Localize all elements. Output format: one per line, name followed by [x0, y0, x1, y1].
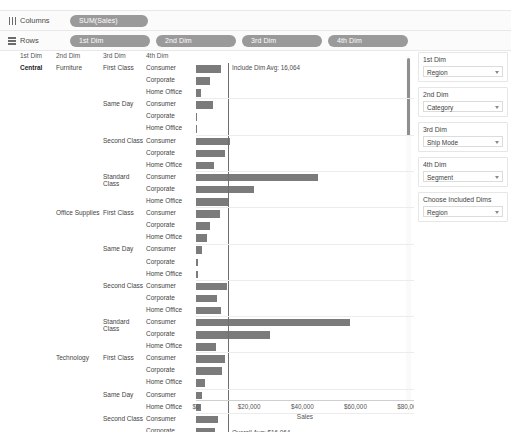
bar[interactable] — [196, 162, 214, 170]
viz-scrollbar-thumb[interactable] — [407, 58, 410, 136]
group-separator — [196, 171, 414, 172]
chevron-down-icon — [495, 176, 499, 179]
reference-line-include-dim-avg — [228, 63, 229, 432]
bar[interactable] — [196, 367, 222, 375]
chevron-down-icon — [495, 141, 499, 144]
bar[interactable] — [196, 271, 198, 279]
pill-2nd-dim[interactable]: 2nd Dim — [156, 35, 236, 47]
table-row[interactable]: Same DayConsumer — [0, 99, 414, 111]
columns-pill-list: SUM(Sales) — [70, 15, 148, 27]
rows-pill-list: 1st Dim 2nd Dim 3rd Dim 4th Dim — [70, 35, 408, 47]
bar[interactable] — [196, 77, 210, 85]
bar[interactable] — [196, 392, 202, 400]
bar[interactable] — [196, 125, 197, 133]
dropdown-2nd-dim[interactable]: Category — [423, 101, 503, 112]
bar[interactable] — [196, 259, 198, 267]
row-dim4-label: Consumer — [146, 391, 176, 399]
header-3rd-dim: 3rd Dim — [103, 52, 126, 59]
pill-4th-dim[interactable]: 4th Dim — [328, 35, 408, 47]
table-row[interactable]: Corporate — [0, 148, 414, 160]
x-axis-tick-label: $20,000 — [238, 403, 261, 410]
bar[interactable] — [196, 222, 210, 230]
control-group-title: Choose Included Dims — [423, 196, 503, 203]
columns-shelf-label: Columns — [0, 16, 70, 25]
table-row[interactable]: Corporate — [0, 184, 414, 196]
dropdown-choose-included-dims[interactable]: Region — [423, 206, 503, 217]
row-dim4-label: Consumer — [146, 64, 176, 72]
table-row[interactable]: Corporate — [0, 220, 414, 232]
control-panel: 1st DimRegion2nd DimCategory3rd DimShip … — [418, 52, 508, 227]
bar[interactable] — [196, 307, 221, 315]
table-row[interactable]: TechnologyFirst ClassConsumer — [0, 353, 414, 365]
table-row[interactable]: Corporate — [0, 329, 414, 341]
row-dim3-label: First Class — [103, 64, 134, 72]
table-row[interactable]: CentralFurnitureFirst ClassConsumer — [0, 63, 414, 75]
table-row[interactable]: Standard ClassConsumer — [0, 317, 414, 329]
row-dim3-label: Same Day — [103, 100, 133, 108]
bar[interactable] — [196, 246, 202, 254]
rows-label-text: Rows — [20, 36, 39, 45]
table-row[interactable]: Corporate — [0, 365, 414, 377]
row-dim3-label: Second Class — [103, 415, 143, 423]
bar[interactable] — [196, 319, 350, 327]
bar[interactable] — [196, 283, 227, 291]
bar[interactable] — [196, 295, 217, 303]
dropdown-3rd-dim[interactable]: Ship Mode — [423, 136, 503, 147]
table-row[interactable]: Same DayConsumer — [0, 244, 414, 256]
bar[interactable] — [196, 113, 197, 121]
pill-sum-sales[interactable]: SUM(Sales) — [70, 15, 148, 27]
row-dim1-label: Central — [20, 64, 42, 72]
row-dim3-label: First Class — [103, 209, 134, 217]
table-row[interactable]: Corporate — [0, 75, 414, 87]
bar[interactable] — [196, 355, 225, 363]
bar[interactable] — [196, 234, 207, 242]
row-dim4-label: Consumer — [146, 100, 176, 108]
row-dim3-label: Second Class — [103, 282, 143, 290]
row-dim4-label: Corporate — [146, 185, 175, 193]
row-dim3-label: Second Class — [103, 137, 143, 145]
dropdown-1st-dim[interactable]: Region — [423, 66, 503, 77]
chevron-down-icon — [495, 211, 499, 214]
control-group: Choose Included DimsRegion — [418, 192, 508, 222]
table-row[interactable]: Standard ClassConsumer — [0, 172, 414, 184]
row-dim4-label: Consumer — [146, 209, 176, 217]
control-group-title: 1st Dim — [423, 56, 503, 63]
table-row[interactable]: Second ClassConsumer — [0, 136, 414, 148]
columns-shelf[interactable]: Columns SUM(Sales) — [0, 10, 511, 31]
group-separator — [196, 389, 414, 390]
bar[interactable] — [196, 331, 270, 339]
control-group: 3rd DimShip Mode — [418, 122, 508, 152]
bar[interactable] — [196, 150, 225, 158]
rows-shelf[interactable]: Rows 1st Dim 2nd Dim 3rd Dim 4th Dim — [0, 31, 511, 51]
bar[interactable] — [196, 210, 220, 218]
bar[interactable] — [196, 101, 213, 109]
dropdown-4th-dim[interactable]: Segment — [423, 171, 503, 182]
bar[interactable] — [196, 198, 229, 206]
table-row[interactable]: Second ClassConsumer — [0, 281, 414, 293]
bar[interactable] — [196, 379, 205, 387]
rows-shelf-label: Rows — [0, 36, 70, 45]
group-separator — [196, 280, 414, 281]
row-dim4-label: Consumer — [146, 245, 176, 253]
table-row[interactable]: Office SuppliesFirst ClassConsumer — [0, 208, 414, 220]
control-group-title: 2nd Dim — [423, 91, 503, 98]
table-header-row: 1st Dim 2nd Dim 3rd Dim 4th Dim — [0, 52, 414, 63]
row-dim4-label: Consumer — [146, 354, 176, 362]
columns-label-text: Columns — [20, 16, 50, 25]
bar[interactable] — [196, 65, 221, 73]
row-dim4-label: Home Office — [146, 342, 182, 350]
table-row[interactable]: Corporate — [0, 293, 414, 305]
bar[interactable] — [196, 343, 216, 351]
pill-1st-dim[interactable]: 1st Dim — [70, 35, 150, 47]
table-row[interactable]: Corporate — [0, 111, 414, 123]
row-dim3-label: Same Day — [103, 245, 133, 253]
x-axis-line — [196, 400, 414, 401]
control-group-title: 3rd Dim — [423, 126, 503, 133]
bar[interactable] — [196, 138, 230, 146]
bar[interactable] — [196, 186, 254, 194]
pill-3rd-dim[interactable]: 3rd Dim — [242, 35, 322, 47]
bar[interactable] — [196, 89, 201, 97]
table-row[interactable]: Corporate — [0, 257, 414, 269]
row-dim4-label: Home Office — [146, 233, 182, 241]
bar[interactable] — [196, 174, 318, 182]
